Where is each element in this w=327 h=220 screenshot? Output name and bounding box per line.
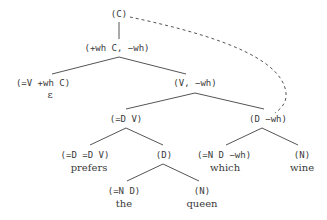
edge-n4-n7 xyxy=(126,128,163,145)
node-n7: (D) xyxy=(156,150,172,160)
node-n8: (=N D −wh) xyxy=(197,150,251,160)
edge-n3-n5 xyxy=(195,93,264,109)
edge-n7-n11 xyxy=(163,164,199,181)
word-prefers: prefers xyxy=(71,162,108,173)
edge-n5-n9 xyxy=(262,128,298,145)
edge-n4-n6 xyxy=(90,128,126,145)
node-n5: (D −wh) xyxy=(249,114,287,124)
node-n3: (V, −wh) xyxy=(173,78,216,88)
edge-n3-n4 xyxy=(126,93,195,109)
edge-n1-n2 xyxy=(52,57,119,74)
word-the: the xyxy=(116,198,132,209)
word-queen: queen xyxy=(186,198,217,209)
node-n4: (=D V) xyxy=(110,114,143,124)
word-which: which xyxy=(210,162,240,173)
node-n10: (=N D) xyxy=(108,186,141,196)
edge-n1-n3 xyxy=(119,57,186,74)
word-epsilon: ε xyxy=(47,89,52,100)
movement-arrow-dashed xyxy=(130,17,286,113)
node-n11: (N) xyxy=(194,186,210,196)
word-wine: wine xyxy=(290,162,314,173)
tree-edges xyxy=(0,0,327,220)
node-n1: (+wh C, −wh) xyxy=(84,43,149,53)
node-n2: (=V +wh C) xyxy=(16,78,70,88)
node-root: (C) xyxy=(111,9,127,19)
edge-n7-n10 xyxy=(127,164,163,181)
edge-n5-n8 xyxy=(226,128,262,145)
node-n9: (N) xyxy=(294,150,310,160)
node-n6: (=D =D V) xyxy=(61,150,110,160)
